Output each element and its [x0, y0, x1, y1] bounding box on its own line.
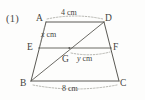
vertex-label-G: G	[62, 55, 69, 65]
vertex-label-C: C	[120, 79, 126, 89]
vertex-label-F: F	[113, 43, 118, 53]
measure-label-ae: x cm	[41, 31, 56, 39]
problem-number: (1)	[6, 14, 19, 25]
vertex-dots	[68, 47, 70, 49]
measure-variable: y	[77, 54, 81, 63]
measure-label-ad: 4 cm	[61, 9, 77, 17]
measure-arcs	[33, 16, 117, 89]
vertex-label-D: D	[105, 14, 112, 24]
geometry-figure: (1) A D E F G B C 4 cm x cm y cm 8 cm	[0, 0, 145, 100]
vertex-label-A: A	[36, 14, 43, 24]
measure-variable: x	[41, 30, 45, 39]
vertex-label-E: E	[27, 43, 33, 53]
measure-label-bc: 8 cm	[62, 85, 78, 93]
measure-label-gf: y cm	[77, 55, 92, 63]
vertex-dot-G	[68, 47, 70, 49]
vertex-label-B: B	[20, 79, 26, 89]
